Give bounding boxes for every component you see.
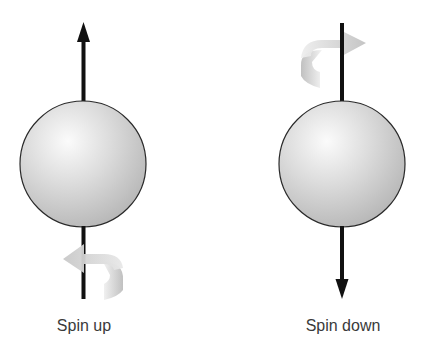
- rotation-arrow-icon: [63, 244, 123, 300]
- rotation-arrow-icon: [301, 30, 366, 88]
- spin-up-panel: [20, 22, 146, 300]
- spin-diagram: [0, 0, 421, 358]
- electron-sphere: [20, 101, 146, 227]
- electron-sphere: [279, 101, 405, 227]
- spin-up-arrow-icon: [77, 22, 90, 109]
- axis-line: [340, 23, 344, 109]
- spin-down-panel: [279, 23, 405, 299]
- spin-down-label: Spin down: [306, 317, 381, 335]
- spin-down-arrow-icon: [336, 226, 349, 299]
- spin-up-label: Spin up: [57, 317, 111, 335]
